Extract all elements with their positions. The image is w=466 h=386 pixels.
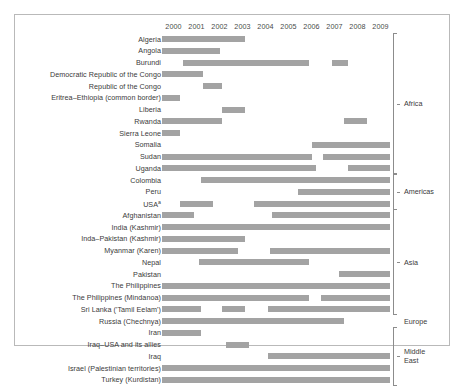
bracket-tick-2	[397, 262, 400, 263]
category-label-28: Israel (Palestinian territories)	[68, 364, 161, 373]
region-label-europe: Europe	[404, 317, 427, 326]
chart-plot-area: AlgeriaAngolaBurundiDemocratic Republic …	[15, 15, 451, 347]
bar-29-0	[162, 377, 390, 383]
bar-27-0	[268, 353, 390, 359]
region-label-africa: Africa	[404, 99, 422, 108]
region-label-middle-east: Middle East	[404, 347, 425, 365]
category-label-27: Iraq	[148, 352, 161, 361]
category-label-29: Turkey (Kurdistan)	[101, 375, 161, 384]
bracket-tick-4	[397, 356, 400, 357]
bar-28-0	[162, 365, 390, 371]
bracket-tick-0	[397, 104, 400, 105]
bracket-tick-1	[397, 192, 400, 193]
region-label-asia: Asia	[404, 258, 418, 267]
region-brackets: AfricaAmericasAsiaEuropeMiddle East	[15, 15, 451, 347]
region-label-americas: Americas	[404, 187, 434, 196]
chart-frame: AlgeriaAngolaBurundiDemocratic Republic …	[14, 14, 450, 346]
